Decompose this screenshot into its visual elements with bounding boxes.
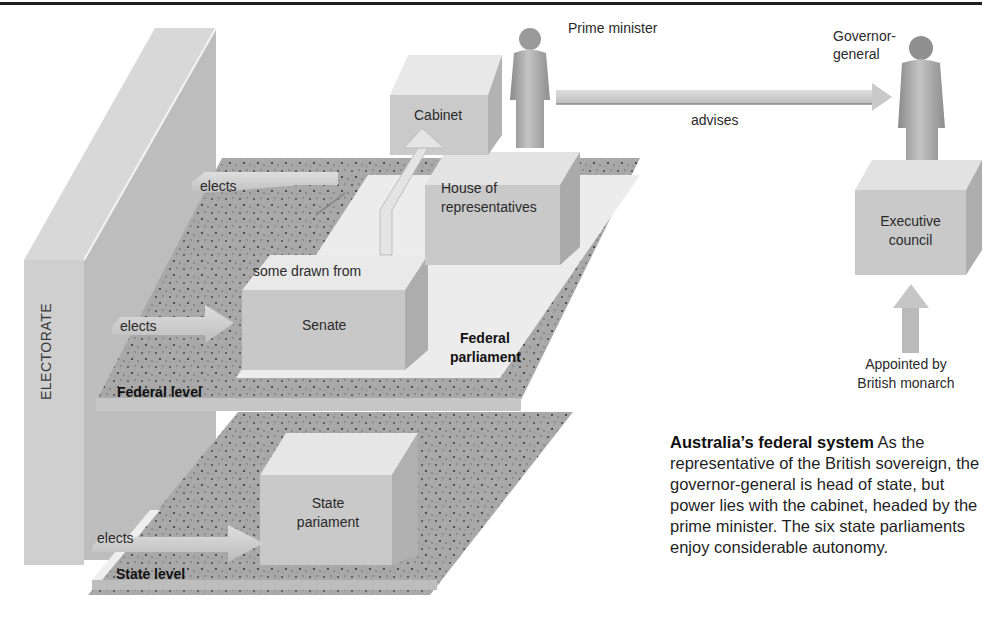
caption: Australia’s federal system As the repres… (670, 432, 980, 558)
senate-label: Senate (302, 317, 346, 334)
state-parliament-label-1: State (264, 495, 392, 512)
federal-level-label: Federal level (117, 384, 202, 401)
cabinet-box (390, 55, 502, 155)
state-parliament-label-2: pariament (264, 514, 392, 531)
cabinet-label: Cabinet (414, 107, 462, 124)
caption-title: Australia’s federal system (670, 433, 874, 451)
governor-label-2: general (833, 46, 880, 63)
some-drawn-from-label: some drawn from (253, 263, 361, 280)
elects-house-label: elects (200, 178, 237, 195)
governor-label-1: Governor- (833, 28, 896, 45)
caption-body: As the representative of the British sov… (670, 433, 979, 556)
federal-parliament-label-2: parliament (450, 349, 521, 366)
appointed-label-2: British monarch (826, 375, 986, 392)
prime-minister-figure (510, 28, 550, 148)
governor-figure (898, 36, 945, 180)
executive-label-1: Executive (855, 213, 966, 230)
elects-senate-label: elects (120, 318, 157, 335)
prime-minister-label: Prime minister (568, 20, 657, 37)
federal-parliament-label-1: Federal (460, 330, 510, 347)
advises-arrow (556, 83, 892, 111)
elects-state-label: elects (97, 530, 134, 547)
house-label-2: representatives (441, 199, 537, 216)
state-level-label: State level (116, 566, 185, 583)
advises-label: advises (691, 112, 738, 129)
appointed-arrow (893, 284, 929, 353)
electorate-label: ELECTORATE (38, 303, 54, 400)
appointed-label-1: Appointed by (826, 356, 986, 373)
executive-label-2: council (855, 232, 966, 249)
house-label-1: House of (441, 180, 497, 197)
